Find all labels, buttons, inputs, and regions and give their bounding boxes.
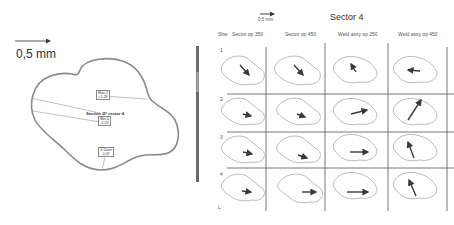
column-header-3: Weld assy op 250 (338, 31, 378, 37)
row-number-2: 2 (220, 96, 223, 102)
row-number-3: 3 (220, 134, 223, 140)
colorbar (196, 46, 199, 182)
annotation-max: Max 4 +1.28 (96, 90, 110, 100)
column-header-1: Sector op 350 (232, 31, 263, 37)
panel-title: Sector 4 (330, 12, 364, 22)
column-header-2: Sector op 450 (285, 31, 316, 37)
row-number-1: 1 (220, 47, 223, 53)
column-header-4: Weld assy op 450 (398, 31, 438, 37)
row-number-4: 4 (220, 171, 223, 177)
small-scale-label: 0,5 mm (258, 17, 273, 22)
annotation-dose: X Dose 0.02 (98, 147, 114, 157)
scale-bar-label: 0,5 mm (16, 47, 56, 61)
annotation-value: 0.02 (100, 152, 112, 156)
annotation-value: -1.23 (100, 121, 109, 125)
annotation-min: Min 4 -1.23 (98, 116, 111, 126)
row-header: Shw (218, 31, 228, 37)
footer-mark: L (218, 204, 221, 210)
annotation-value: +1.28 (98, 95, 108, 99)
grid-lines (227, 43, 454, 211)
displacement-arrows (240, 64, 421, 196)
